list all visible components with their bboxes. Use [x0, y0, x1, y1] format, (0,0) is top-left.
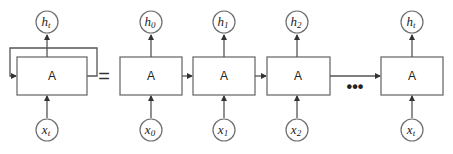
- unrolled-cell-0: A h0 x0: [120, 11, 182, 141]
- equals-sign: =: [98, 65, 110, 87]
- cell-label: A: [147, 69, 155, 83]
- rnn-diagram: A ht xt = A h0 x0 A h1 x1 A h2: [0, 0, 453, 154]
- unrolled-cell-2: A h2 x2: [267, 11, 330, 141]
- folded-rnn: A ht xt: [10, 11, 97, 141]
- cell-label: A: [220, 69, 228, 83]
- cell-label: A: [408, 69, 416, 83]
- unrolled-cell-1: A h1 x1: [193, 11, 255, 141]
- ellipsis: •••: [347, 78, 364, 95]
- unrolled-cell-t: A ht xt: [381, 11, 443, 141]
- cell-label: A: [294, 69, 302, 83]
- folded-cell-label: A: [48, 69, 56, 83]
